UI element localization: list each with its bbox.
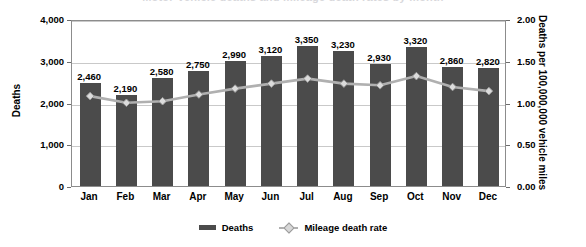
legend-label: Deaths [222, 222, 254, 233]
y-tick-label-right: 1.50 [517, 56, 557, 67]
mileage-death-rate-line [90, 76, 489, 103]
legend-line-diamond-swatch-icon [279, 224, 298, 231]
legend-item-mileage-death-rate[interactable]: Mileage death rate [279, 222, 387, 233]
bar-value-label: 2,460 [66, 71, 112, 82]
y-tick-label-left: 0 [4, 181, 64, 192]
line-marker-jun [268, 80, 276, 88]
y-tick-label-right: 2.00 [517, 14, 557, 25]
bar-value-label: 2,820 [465, 56, 511, 67]
bar-value-label: 2,750 [175, 59, 221, 70]
y-tick-label-left: 3,000 [4, 56, 64, 67]
line-marker-mar [159, 97, 167, 105]
legend-bar-swatch-icon [199, 225, 216, 230]
y-tick-label-right: 0.00 [517, 181, 557, 192]
chart-plot-area: Deaths Deaths per 100,000,000 vehicle mi… [0, 0, 586, 215]
legend-label: Mileage death rate [304, 222, 387, 233]
y-tick-label-right: 0.50 [517, 139, 557, 150]
line-marker-nov [449, 83, 457, 91]
line-marker-sep [376, 81, 384, 89]
bar-value-label: 3,320 [392, 35, 438, 46]
y-tick-label-right: 1.00 [517, 98, 557, 109]
y-tick-mark-left [67, 187, 71, 188]
line-marker-oct [413, 72, 421, 80]
chart-legend: DeathsMileage death rate [0, 222, 586, 233]
x-tick-label-dec: Dec [465, 191, 511, 202]
line-marker-dec [485, 87, 493, 95]
legend-item-deaths[interactable]: Deaths [199, 222, 254, 233]
line-marker-may [231, 85, 239, 93]
line-marker-jan [86, 92, 94, 100]
bar-value-label: 3,230 [320, 39, 366, 50]
bar-value-label: 2,190 [102, 83, 148, 94]
line-marker-aug [340, 80, 348, 88]
line-marker-feb [123, 99, 131, 107]
line-marker-jul [304, 75, 312, 83]
y-tick-label-left: 2,000 [4, 98, 64, 109]
line-marker-apr [195, 91, 203, 99]
bar-value-label: 2,930 [356, 52, 402, 63]
y-tick-label-left: 4,000 [4, 14, 64, 25]
bar-value-label: 3,120 [247, 44, 293, 55]
y-tick-label-left: 1,000 [4, 139, 64, 150]
